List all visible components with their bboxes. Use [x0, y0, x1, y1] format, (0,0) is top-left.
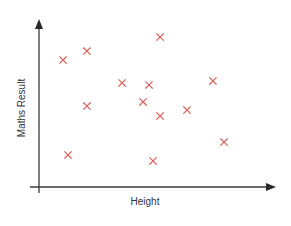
- data-point-x-marker-icon: [210, 78, 217, 85]
- data-point-x-marker-icon: [119, 80, 126, 87]
- x-axis-arrow-icon: [266, 183, 276, 191]
- data-point-x-marker-icon: [157, 113, 164, 120]
- y-axis-label: Maths Result: [16, 79, 27, 138]
- data-point-x-marker-icon: [184, 107, 191, 114]
- data-points: [60, 34, 228, 165]
- data-point-x-marker-icon: [65, 152, 72, 159]
- y-axis-arrow-icon: [35, 19, 43, 29]
- x-axis-label: Height: [131, 196, 160, 207]
- data-point-x-marker-icon: [157, 34, 164, 41]
- scatter-chart: Height Maths Result: [0, 0, 291, 226]
- data-point-x-marker-icon: [146, 82, 153, 89]
- data-point-x-marker-icon: [150, 158, 157, 165]
- data-point-x-marker-icon: [60, 57, 67, 64]
- data-point-x-marker-icon: [140, 99, 147, 106]
- data-point-x-marker-icon: [221, 139, 228, 146]
- data-point-x-marker-icon: [84, 48, 91, 55]
- data-point-x-marker-icon: [84, 103, 91, 110]
